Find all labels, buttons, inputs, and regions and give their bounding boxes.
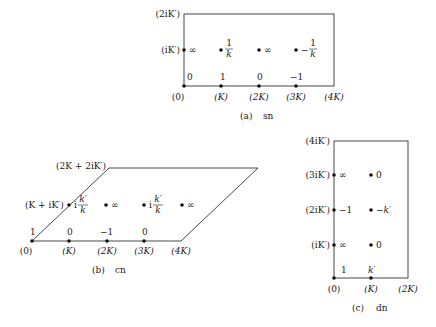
- panel-dn: (iK′) (2iK′) (3iK′) (4iK′) ∞ −1 ∞ 0 −k′ …: [306, 136, 419, 313]
- sn-point-K: [219, 84, 223, 88]
- dn-value-K: k′: [368, 265, 376, 275]
- fraction-numerator: k′: [79, 194, 87, 204]
- fraction-denominator: k: [80, 205, 85, 215]
- panel-cn: (2K + 2iK′) (K + iK′) 1 0 −1 0 (0) (K) (…: [20, 161, 258, 275]
- cn-label-2K-2iK: (2K + 2iK′): [56, 161, 106, 171]
- dn-label-iK: (iK′): [311, 240, 330, 250]
- fraction-numerator: 1: [226, 38, 232, 48]
- sn-axis-3K: (3K): [286, 92, 306, 102]
- dn-label-2iK: (2iK′): [306, 205, 330, 215]
- fraction-sign: −: [301, 45, 309, 55]
- sn-value-3K: −1: [290, 72, 303, 82]
- cn-point-K-iK: [67, 203, 71, 207]
- fraction-numerator: k′: [154, 194, 162, 204]
- sn-axis-2K: (2K): [249, 92, 269, 102]
- dn-point-K-iK: [369, 243, 373, 247]
- cn-value-3K: 0: [142, 227, 148, 237]
- cn-axis-3K: (3K): [134, 246, 154, 256]
- elliptic-function-diagram: (2iK′) (iK′) 0 1 0 −1 (0) (K) (2K) (3K) …: [0, 0, 436, 327]
- dn-point-2iK: [332, 208, 336, 212]
- dn-left-value-0: ∞: [339, 240, 347, 250]
- cn-value-2K: −1: [100, 227, 113, 237]
- dn-mid-value-1: −k′: [376, 205, 391, 215]
- cn-point-3K-iK: [142, 203, 146, 207]
- sn-mid-value-1-fraction: 1 k: [225, 38, 233, 59]
- sn-label-2iK: (2iK′): [156, 9, 180, 19]
- dn-point-K-2iK: [369, 208, 373, 212]
- dn-axis-0: (0): [328, 284, 341, 294]
- cn-point-2K: [105, 239, 109, 243]
- sn-mid-value-3-fraction: − 1 k: [301, 38, 317, 59]
- cn-axis-0: (0): [20, 246, 33, 256]
- dn-mid-value-0: 0: [376, 240, 382, 250]
- dn-left-value-1: −1: [339, 205, 352, 215]
- sn-mid-value-0: ∞: [189, 45, 197, 55]
- cn-point-K: [67, 239, 71, 243]
- cn-point-3K: [142, 239, 146, 243]
- fraction-sign: i: [74, 200, 77, 210]
- sn-caption-tag: (a): [240, 111, 252, 121]
- cn-point-4K-iK: [180, 203, 184, 207]
- dn-left-value-2: ∞: [339, 170, 347, 180]
- cn-axis-4K: (4K): [171, 246, 191, 256]
- sn-axis-K: (K): [214, 92, 228, 102]
- dn-label-4iK: (4iK′): [306, 136, 330, 146]
- dn-point-0: [332, 276, 336, 280]
- dn-point-iK: [332, 243, 336, 247]
- cn-mid-value-0-fraction: i k′ k: [74, 194, 88, 215]
- cn-mid-value-3: ∞: [187, 200, 195, 210]
- dn-mid-value-2: 0: [376, 170, 382, 180]
- sn-value-2K: 0: [257, 72, 263, 82]
- fraction-denominator: k: [310, 49, 315, 59]
- cn-caption-fn: cn: [115, 265, 126, 275]
- sn-axis-4K: (4K): [324, 92, 344, 102]
- cn-axis-K: (K): [62, 246, 76, 256]
- sn-point-2K: [257, 84, 261, 88]
- sn-axis-0: (0): [172, 92, 185, 102]
- fraction-numerator: 1: [310, 38, 316, 48]
- dn-caption-tag: (c): [352, 303, 364, 313]
- cn-point-0: [30, 239, 34, 243]
- fraction-denominator: k: [226, 49, 231, 59]
- fraction-denominator: k: [155, 205, 160, 215]
- dn-point-K: [369, 276, 373, 280]
- cn-axis-2K: (2K): [97, 246, 117, 256]
- cn-mid-value-2-fraction: i k′ k: [149, 194, 163, 215]
- sn-point-3K: [294, 84, 298, 88]
- panel-sn: (2iK′) (iK′) 0 1 0 −1 (0) (K) (2K) (3K) …: [156, 9, 345, 121]
- sn-label-iK: (iK′): [161, 45, 180, 55]
- cn-caption-tag: (b): [92, 265, 105, 275]
- sn-point-2K-iK: [257, 48, 261, 52]
- dn-point-K-3iK: [369, 173, 373, 177]
- sn-value-K: 1: [220, 72, 226, 82]
- dn-value-0: 1: [341, 265, 347, 275]
- dn-point-3iK: [332, 173, 336, 177]
- cn-value-0: 1: [30, 227, 36, 237]
- dn-label-3iK: (3iK′): [306, 170, 330, 180]
- sn-point-3K-iK: [294, 48, 298, 52]
- cn-point-2K-iK: [104, 203, 108, 207]
- cn-label-K-iK: (K + iK′): [25, 200, 64, 210]
- sn-point-0: [182, 84, 186, 88]
- fraction-sign: i: [149, 200, 152, 210]
- cn-value-K: 0: [67, 227, 73, 237]
- sn-point-K-iK: [219, 48, 223, 52]
- sn-point-iK: [182, 48, 186, 52]
- dn-axis-2K: (2K): [398, 284, 418, 294]
- sn-caption-fn: sn: [263, 111, 274, 121]
- sn-mid-value-2: ∞: [264, 45, 272, 55]
- cn-mid-value-1: ∞: [111, 200, 119, 210]
- dn-axis-K: (K): [364, 284, 378, 294]
- sn-value-0: 0: [187, 72, 193, 82]
- dn-caption-fn: dn: [376, 303, 388, 313]
